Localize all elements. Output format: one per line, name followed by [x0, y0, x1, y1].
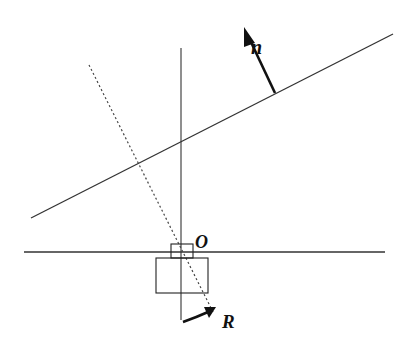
rotated-axis-dotted-line: [89, 65, 213, 312]
geometry-diagram: n O R: [0, 0, 413, 355]
origin-label: O: [195, 232, 208, 252]
rotation-label: R: [221, 311, 235, 332]
inclined-plane-line: [31, 34, 393, 218]
rotation-arrow: [183, 312, 208, 322]
normal-label: n: [251, 36, 262, 58]
